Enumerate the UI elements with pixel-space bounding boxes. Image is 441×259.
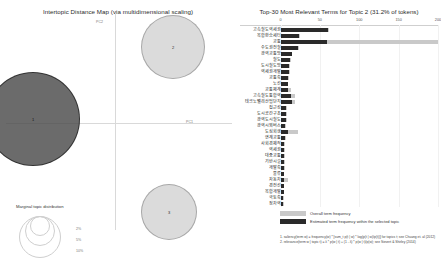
bar-topic-frequency — [281, 88, 288, 93]
marginal-legend-title: Marginal topic distribution — [16, 204, 63, 209]
bar-topic-frequency — [281, 82, 288, 87]
topic-circle-number: 1 — [32, 117, 34, 122]
topic-circle-number: 3 — [168, 210, 170, 215]
x-axis-line — [240, 25, 438, 26]
bar-topic-frequency — [281, 154, 285, 159]
bar-topic-frequency — [281, 76, 289, 81]
bar-topic-frequency — [281, 52, 292, 57]
topic-circle-3[interactable]: 3 — [141, 184, 197, 240]
x-axis-tick-50: 50 — [318, 18, 322, 22]
barchart-legend: Overall term frequency Estimated term fr… — [280, 210, 440, 226]
bar-topic-frequency — [281, 46, 298, 51]
legend-label-topic: Estimated term frequency within the sele… — [310, 218, 399, 225]
legend-row-topic: Estimated term frequency within the sele… — [280, 218, 440, 226]
bar-topic-frequency — [281, 178, 285, 183]
legend-row-overall: Overall term frequency — [280, 210, 440, 218]
legend-swatch-overall — [280, 211, 306, 216]
legend-swatch-topic — [280, 219, 306, 224]
marginal-label-5pct: 5% — [76, 238, 81, 242]
topic-circle-number: 2 — [172, 45, 174, 50]
bar-topic-frequency — [281, 172, 284, 177]
bar-topic-frequency — [281, 124, 286, 129]
x-axis-tick-150: 150 — [395, 18, 401, 22]
bar-topic-frequency — [281, 100, 292, 105]
bar-topic-frequency — [281, 70, 290, 75]
bar-topic-frequency — [281, 190, 284, 195]
footnote-saliency: 1. saliency(term w) = frequency(w) * [su… — [280, 235, 435, 239]
x-axis-tick-0: 0 — [279, 18, 281, 22]
bar-topic-frequency — [281, 196, 283, 201]
bar-topic-frequency — [281, 184, 284, 189]
bar-topic-frequency — [281, 142, 285, 147]
term-bars-list: 고속철도역세권복합환승세터교통수도권전철광역교통망철도도시철도망역세권개발교통축… — [237, 27, 441, 207]
marginal-circle-10pct — [19, 216, 61, 258]
legend-label-overall: Overall term frequency — [310, 210, 350, 217]
marginal-label-10pct: 10% — [76, 249, 83, 253]
bar-topic-frequency — [281, 94, 291, 99]
pc1-axis-label: PC1 — [186, 120, 193, 124]
right-panel-title: Top-30 Most Relevant Terms for Topic 2 (… — [237, 8, 441, 15]
bar-topic-frequency — [281, 40, 327, 45]
x-axis-tick-200: 200 — [435, 18, 441, 22]
topic-circle-1[interactable]: 1 — [0, 72, 80, 166]
term-label: 정차역 — [269, 201, 281, 207]
bar-topic-frequency — [281, 58, 290, 63]
bar-topic-frequency — [281, 136, 286, 141]
x-axis-tick-100: 100 — [356, 18, 362, 22]
bar-topic-frequency — [281, 166, 285, 171]
bar-topic-frequency — [281, 160, 285, 165]
bar-topic-frequency — [281, 148, 285, 153]
footnote-relevance: 2. relevance(term w | topic t) = λ * p(w… — [280, 240, 416, 244]
left-panel-title: Intertopic Distance Map (via multidimens… — [18, 8, 218, 15]
intertopic-distance-map-panel[interactable]: Intertopic Distance Map (via multidimens… — [0, 0, 237, 259]
pc2-axis-label: PC2 — [96, 20, 103, 24]
bar-topic-frequency — [281, 106, 287, 111]
bar-topic-frequency — [281, 64, 290, 69]
bar-topic-frequency — [281, 112, 287, 117]
marginal-topic-distribution-legend: Marginal topic distribution 2% 5% 10% — [14, 204, 114, 256]
term-bar-row[interactable]: 정차역 — [237, 201, 441, 207]
marginal-label-2pct: 2% — [76, 227, 81, 231]
bar-topic-frequency — [281, 118, 287, 123]
bar-topic-frequency — [281, 28, 328, 33]
bar-topic-frequency — [281, 130, 288, 135]
topic-circle-2[interactable]: 2 — [141, 15, 205, 79]
bar-topic-frequency — [281, 34, 300, 39]
bar-topic-frequency — [281, 202, 283, 207]
pc2-axis-line — [115, 14, 116, 230]
top-terms-barchart-panel: Top-30 Most Relevant Terms for Topic 2 (… — [237, 0, 441, 259]
